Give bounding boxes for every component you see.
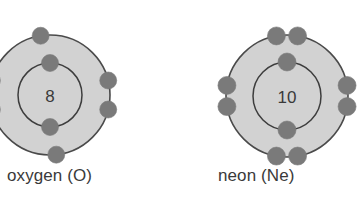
outer-shell-electron-oxygen-1 (32, 27, 49, 44)
outer-shell-electron-neon-3 (289, 147, 307, 165)
outer-shell-electron-oxygen-2 (48, 146, 65, 163)
outer-shell-electron-neon-6 (338, 98, 356, 116)
outer-shell-electron-oxygen-4 (100, 101, 117, 118)
inner-shell-electron-neon-1 (278, 53, 296, 71)
nucleus-label-neon: 10 (278, 88, 297, 107)
atom-group-neon: 10 (218, 27, 356, 165)
outer-shell-circle-oxygen (0, 35, 110, 155)
outer-shell-electron-neon-5 (338, 76, 356, 94)
inner-shell-electron-oxygen-1 (42, 55, 59, 72)
outer-shell-electron-oxygen-3 (100, 72, 117, 89)
nucleus-label-oxygen: 8 (45, 87, 54, 106)
outer-shell-electron-neon-7 (218, 76, 236, 94)
inner-shell-electron-neon-2 (278, 121, 296, 139)
inner-shell-electron-oxygen-2 (42, 119, 59, 136)
outer-shell-electron-neon-8 (218, 98, 236, 116)
atomic-structure-figure: 810 oxygen (O) neon (Ne) (0, 0, 362, 216)
outer-shell-electron-neon-2 (289, 27, 307, 45)
outer-shell-electron-neon-4 (267, 147, 285, 165)
outer-shell-electron-neon-1 (267, 27, 285, 45)
atom-caption-oxygen: oxygen (O) (7, 166, 92, 186)
atom-group-oxygen: 8 (0, 27, 117, 163)
atom-caption-neon: neon (Ne) (218, 166, 295, 186)
